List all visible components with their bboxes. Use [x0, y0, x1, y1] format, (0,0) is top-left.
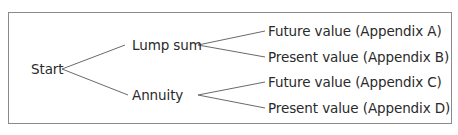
edge-start-annuity	[62, 69, 128, 95]
node-lump-sum: Lump sum	[132, 37, 202, 53]
edge-start-lumpsum	[62, 45, 125, 69]
edge-annuity-pv	[198, 95, 265, 108]
leaf-future-value-c: Future value (Appendix C)	[268, 74, 442, 90]
node-start: Start	[31, 61, 63, 77]
edge-lumpsum-fv	[198, 31, 265, 45]
leaf-present-value-b: Present value (Appendix B)	[268, 49, 449, 65]
node-annuity: Annuity	[132, 87, 183, 103]
leaf-present-value-d: Present value (Appendix D)	[268, 100, 450, 116]
edge-lumpsum-pv	[198, 45, 265, 57]
edge-annuity-fv	[198, 82, 265, 95]
leaf-future-value-a: Future value (Appendix A)	[268, 23, 442, 39]
